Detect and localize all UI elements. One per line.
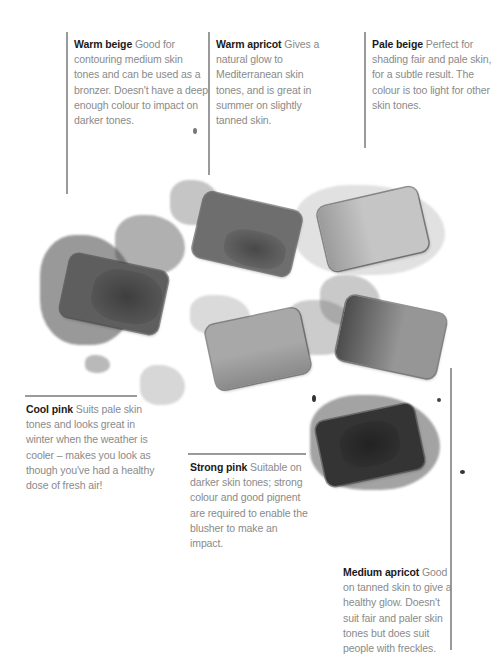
leader-line-warm-beige	[66, 32, 68, 194]
leader-line-strong-pink	[188, 453, 306, 455]
shade-description: Suits pale skin tones and looks great in…	[26, 403, 154, 491]
compact-medium-apricot	[334, 294, 447, 380]
caption-warm-apricot: Warm apricot Gives a natural glow to Med…	[216, 37, 334, 128]
shade-description: Gives a natural glow to Mediterranean sk…	[216, 38, 319, 126]
compact-warm-beige	[191, 191, 303, 278]
shade-description: Good on tanned skin to give a healthy gl…	[343, 566, 452, 654]
shade-name: Medium apricot	[343, 566, 419, 578]
shade-name: Warm apricot	[216, 38, 282, 50]
caption-strong-pink: Strong pink Suitable on darker skin tone…	[190, 460, 312, 551]
shade-name: Strong pink	[190, 461, 247, 473]
shade-description: Good for contouring medium skin tones an…	[74, 38, 208, 126]
leader-line-pale-beige	[364, 32, 366, 148]
caption-medium-apricot: Medium apricot Good on tanned skin to gi…	[343, 565, 453, 656]
leader-line-cool-pink	[25, 395, 137, 397]
caption-cool-pink: Cool pink Suits pale skin tones and look…	[26, 402, 156, 493]
caption-pale-beige: Pale beige Perfect for shading fair and …	[372, 37, 494, 113]
caption-warm-beige: Warm beige Good for contouring medium sk…	[74, 37, 209, 128]
shade-description: Suitable on darker skin tones; strong co…	[190, 461, 308, 549]
shade-name: Cool pink	[26, 403, 73, 415]
shade-name: Warm beige	[74, 38, 132, 50]
shade-name: Pale beige	[372, 38, 423, 50]
